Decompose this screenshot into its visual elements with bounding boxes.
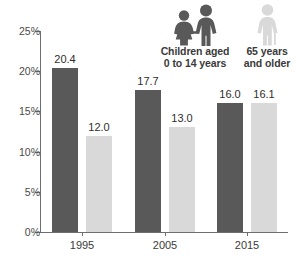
bar bbox=[169, 127, 195, 232]
bar bbox=[86, 136, 112, 232]
x-axis-tick-mark bbox=[82, 232, 83, 236]
bar-chart-figure: Children aged 0 to 14 years 65 years and… bbox=[0, 0, 296, 261]
bar bbox=[217, 103, 243, 232]
x-axis-tick-label: 2005 bbox=[153, 239, 177, 251]
y-axis-tick-label: 15% bbox=[8, 105, 40, 117]
x-axis-tick-mark bbox=[247, 232, 248, 236]
y-axis-line bbox=[40, 31, 41, 233]
y-axis-tick-label: 5% bbox=[8, 186, 40, 198]
x-axis-tick-label: 2015 bbox=[235, 239, 259, 251]
x-axis-tick-mark bbox=[165, 232, 166, 236]
x-axis-tick-label: 1995 bbox=[70, 239, 94, 251]
y-axis-tick-label: 25% bbox=[8, 25, 40, 37]
bar-value-label: 12.0 bbox=[88, 121, 109, 133]
y-axis-tick-label: 20% bbox=[8, 65, 40, 77]
y-axis-tick-label: 0% bbox=[8, 226, 40, 238]
x-axis-line bbox=[40, 232, 288, 233]
plot-area: 0%5%10%15%20%25% 199520052015 20.412.017… bbox=[0, 0, 296, 261]
y-axis-tick-label: 10% bbox=[8, 146, 40, 158]
bar bbox=[135, 90, 161, 232]
bar bbox=[251, 103, 277, 232]
bar-value-label: 16.1 bbox=[253, 88, 274, 100]
bar-value-label: 20.4 bbox=[54, 53, 75, 65]
bar-value-label: 16.0 bbox=[219, 88, 240, 100]
bar-value-label: 13.0 bbox=[171, 112, 192, 124]
bar-value-label: 17.7 bbox=[137, 75, 158, 87]
bar bbox=[52, 68, 78, 232]
